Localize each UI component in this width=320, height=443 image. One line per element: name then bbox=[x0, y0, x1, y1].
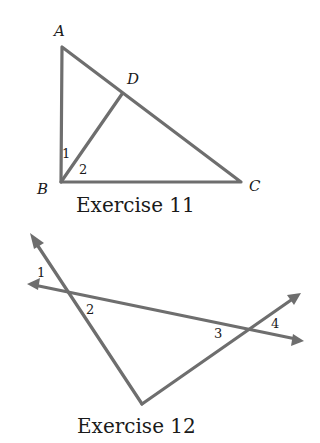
point-label-a: A bbox=[52, 22, 65, 40]
point-label-b: B bbox=[36, 180, 48, 198]
exercise-12-figure: 1 2 3 4 Exercise 12 bbox=[27, 233, 304, 438]
angle-label-2: 2 bbox=[86, 302, 94, 317]
angle-label-3: 3 bbox=[214, 326, 222, 341]
angle-label-1: 1 bbox=[37, 265, 45, 280]
arrowhead-upper-left-icon bbox=[30, 233, 44, 249]
ray-left bbox=[34, 240, 142, 404]
triangle-abc bbox=[61, 47, 241, 182]
arrowhead-right-icon bbox=[291, 334, 304, 346]
ray-right bbox=[142, 298, 294, 404]
angle-label-4: 4 bbox=[271, 316, 279, 331]
figure-canvas: A D B C 1 2 Exercise 11 1 2 3 4 Exercise… bbox=[0, 0, 320, 443]
point-label-d: D bbox=[126, 70, 139, 88]
exercise-11-figure: A D B C 1 2 Exercise 11 bbox=[36, 22, 261, 217]
angle-label-2: 2 bbox=[79, 162, 87, 177]
transversal-line bbox=[34, 285, 296, 339]
angle-label-1: 1 bbox=[62, 146, 70, 161]
exercise-11-caption: Exercise 11 bbox=[76, 193, 195, 217]
point-label-c: C bbox=[249, 177, 261, 195]
exercise-12-caption: Exercise 12 bbox=[77, 414, 196, 438]
segment-bd bbox=[61, 94, 122, 182]
